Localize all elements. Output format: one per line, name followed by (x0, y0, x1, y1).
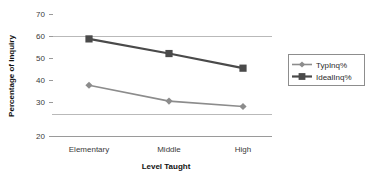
line-chart-canvas: 70 60 50 40 30 20 Percentage of Inquiry … (0, 0, 368, 181)
data-point-idealinq (85, 35, 92, 42)
x-category-elementary: Elementary (69, 145, 109, 154)
legend-label-idealinq: IdealInq% (316, 73, 352, 82)
y-tick-label-60: 60 (36, 32, 45, 41)
y-tick-label-40: 40 (36, 76, 45, 85)
y-axis-title: Percentage of Inquiry (7, 35, 16, 117)
chart-background (0, 0, 368, 181)
data-point-idealinq (165, 50, 172, 57)
x-axis-title: Level Taught (142, 162, 191, 171)
chart-figure: 70 60 50 40 30 20 Percentage of Inquiry … (0, 0, 368, 181)
y-tick-label-20: 20 (36, 132, 45, 141)
y-tick-label-30: 30 (36, 98, 45, 107)
y-tick-label-70: 70 (36, 10, 45, 19)
y-tick-label-50: 50 (36, 54, 45, 63)
legend-label-typinq: TypInq% (316, 61, 347, 70)
square-icon (299, 73, 306, 80)
legend: TypInq% IdealInq% (289, 55, 365, 86)
data-point-idealinq (239, 65, 246, 72)
x-category-high: High (235, 145, 251, 154)
x-category-middle: Middle (157, 145, 181, 154)
